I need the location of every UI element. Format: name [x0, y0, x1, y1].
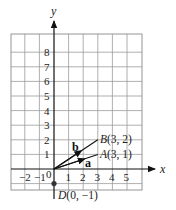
svg-text:4: 4: [44, 105, 50, 117]
svg-text:2: 2: [80, 171, 86, 183]
svg-text:1: 1: [66, 171, 72, 183]
grid: [11, 34, 142, 190]
vector-b-label: b: [72, 140, 79, 154]
svg-text:4: 4: [109, 171, 115, 183]
svg-text:3: 3: [44, 119, 50, 131]
svg-text:−1: −1: [34, 171, 46, 183]
point-b-label: B(3, 2): [100, 133, 132, 146]
svg-text:−2: −2: [19, 171, 31, 183]
origin-label: 0: [46, 168, 52, 180]
svg-text:1: 1: [44, 148, 50, 160]
svg-text:7: 7: [44, 61, 50, 73]
svg-text:6: 6: [44, 75, 50, 87]
coordinate-diagram: x y 1 2 3 4 5 6 7 8 −2 −1 1 2 3 4 5 0 b …: [0, 0, 176, 210]
y-axis-label: y: [50, 4, 57, 18]
svg-text:5: 5: [124, 171, 130, 183]
point-d-label: D(0, −1): [57, 189, 98, 202]
x-tick-labels: −2 −1 1 2 3 4 5: [19, 171, 130, 183]
vector-a: a: [54, 154, 98, 170]
y-tick-labels: 1 2 3 4 5 6 7 8: [44, 46, 50, 160]
point-d: [51, 181, 56, 186]
svg-text:5: 5: [44, 90, 50, 102]
vector-a-label: a: [85, 156, 91, 170]
svg-text:2: 2: [44, 134, 50, 146]
point-a-label: A(3, 1): [99, 148, 132, 161]
svg-text:8: 8: [44, 46, 50, 58]
svg-text:3: 3: [95, 171, 101, 183]
x-axis-label: x: [159, 162, 166, 176]
